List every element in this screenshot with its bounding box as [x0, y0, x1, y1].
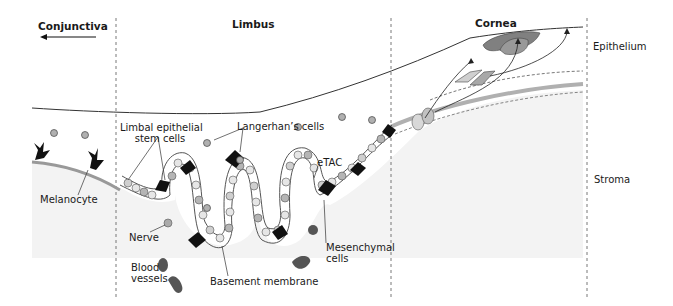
region-label-conjunctiva: Conjunctiva — [38, 20, 108, 32]
layer-label-epithelium: Epithelium — [593, 41, 647, 52]
label-limbal-stem-cells-line2: stem cells — [120, 133, 200, 144]
layer-label-stroma: Stroma — [594, 174, 630, 185]
region-label-cornea: Cornea — [475, 17, 517, 29]
label-etac: eTAC — [317, 157, 342, 168]
nerve — [164, 219, 172, 227]
region-label-limbus: Limbus — [232, 18, 274, 30]
label-blood-vessels-line1: Blood — [131, 262, 168, 273]
label-nerve: Nerve — [129, 232, 159, 243]
label-blood-vessels: Blood vessels — [131, 262, 168, 284]
limbus-diagram: Conjunctiva Limbus Cornea Epithelium Str… — [0, 0, 673, 306]
label-mesenchymal-cells: Mesenchymal cells — [326, 242, 395, 264]
label-mesenchymal-line2: cells — [326, 253, 395, 264]
label-langerhans-cells: Langerhan’s cells — [237, 121, 324, 132]
label-basement-membrane: Basement membrane — [210, 276, 318, 287]
conjunctiva-arrow-head — [40, 34, 47, 40]
label-blood-vessels-line2: vessels — [131, 273, 168, 284]
stroma-region — [32, 90, 583, 258]
label-limbal-stem-cells-line1: Limbal epithelial — [120, 122, 200, 133]
label-limbal-stem-cells: Limbal epithelial stem cells — [120, 122, 200, 144]
migrating-corneal-cells — [455, 32, 540, 85]
label-mesenchymal-line1: Mesenchymal — [326, 242, 395, 253]
label-melanocyte: Melanocyte — [40, 194, 98, 205]
